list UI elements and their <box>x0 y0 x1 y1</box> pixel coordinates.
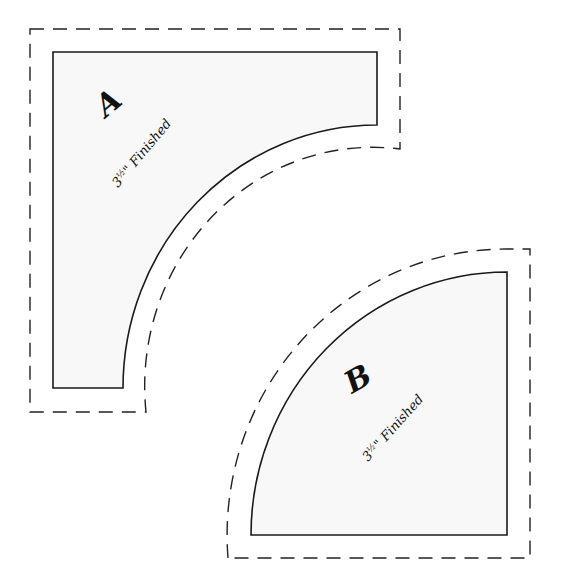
quilt-template-diagram: A 3½" Finished B 3½" Finished <box>0 0 563 583</box>
piece-b: B 3½" Finished <box>227 249 530 558</box>
piece-b-finished-shape <box>251 272 507 535</box>
